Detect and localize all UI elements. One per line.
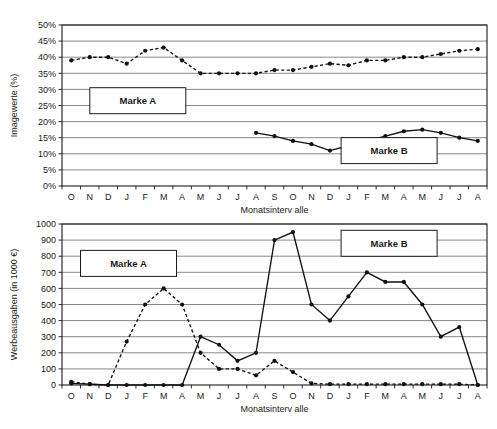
data-point [439,382,443,386]
series-label-text: Marke B [371,238,408,249]
x-tick-label: M [160,192,168,202]
x-tick-label: J [346,192,351,202]
data-point [254,131,258,135]
x-tick-label: M [419,192,427,202]
data-point [383,280,387,284]
y-tick-label: 25% [38,101,56,111]
x-tick-label: M [419,391,427,401]
data-point [383,58,387,62]
data-point [143,383,147,387]
y-tick-label: 10% [38,149,56,159]
y-axis-title: Werbeausgaben (in 1000 €) [9,249,19,360]
data-point [439,52,443,56]
data-point [198,351,202,355]
data-point [162,45,166,49]
x-tick-label: O [68,391,75,401]
data-point [309,381,313,385]
x-tick-label: J [124,391,129,401]
y-tick-label: 200 [41,348,56,358]
x-tick-label: J [235,192,240,202]
y-tick-label: 30% [38,85,56,95]
x-tick-label: J [235,391,240,401]
data-point [106,383,110,387]
data-point [476,47,480,51]
x-tick-label: F [142,391,148,401]
x-tick-label: A [253,391,259,401]
x-tick-label: J [217,391,222,401]
x-tick-label: N [86,192,93,202]
series-label-box-marke-b: Marke B [341,230,437,256]
y-tick-label: 1000 [36,219,56,229]
data-point [198,335,202,339]
x-tick-label: M [160,391,168,401]
data-point [69,381,73,385]
x-tick-label: A [401,391,407,401]
x-tick-label: M [197,391,205,401]
series-label-box-marke-a: Marke A [81,250,177,276]
data-point [328,148,332,152]
x-tick-label: J [439,391,444,401]
x-tick-label: F [364,192,370,202]
y-tick-label: 20% [38,117,56,127]
x-tick-label: D [327,391,334,401]
data-point [162,383,166,387]
image-values-chart: 0%5%10%15%20%25%30%35%40%45%50%ONDJFMAMJ… [0,0,497,215]
data-point [180,58,184,62]
x-tick-label: N [86,391,93,401]
y-tick-label: 500 [41,300,56,310]
x-tick-label: A [475,391,481,401]
y-tick-label: 400 [41,316,56,326]
data-point [346,382,350,386]
data-point [272,359,276,363]
x-tick-label: F [364,391,370,401]
x-tick-label: O [68,192,75,202]
x-tick-label: N [308,192,315,202]
data-point [106,55,110,59]
series-label-text: Marke A [110,258,147,269]
data-point [291,230,295,234]
data-point [272,238,276,242]
data-point [439,131,443,135]
data-point [180,383,184,387]
ad-spend-chart: 01002003004005006007008009001000ONDJFMAM… [0,210,497,429]
y-tick-label: 300 [41,332,56,342]
data-point [254,373,258,377]
data-point [272,134,276,138]
data-point [162,286,166,290]
data-point [309,142,313,146]
data-point [125,339,129,343]
y-tick-label: 45% [38,36,56,46]
y-axis: 01002003004005006007008009001000 [36,219,62,390]
data-point [402,55,406,59]
data-point [457,382,461,386]
data-point [235,359,239,363]
x-tick-label: J [217,192,222,202]
x-tick-label: A [179,391,185,401]
data-point [309,302,313,306]
data-point [328,62,332,66]
x-tick-label: A [401,192,407,202]
data-point [420,128,424,132]
y-tick-label: 40% [38,52,56,62]
data-point [402,129,406,133]
data-point [291,370,295,374]
data-point [328,319,332,323]
data-point [457,136,461,140]
y-tick-label: 35% [38,69,56,79]
x-tick-label: A [475,192,481,202]
x-axis-title: Monatsinterv alle [240,404,308,414]
series-label-box-marke-a: Marke A [90,88,186,114]
x-tick-label: J [457,391,462,401]
data-point [272,68,276,72]
data-point [420,302,424,306]
data-point [291,139,295,143]
y-axis-title: Imagewerte (%) [9,74,19,138]
y-tick-label: 800 [41,251,56,261]
bottom-plot: 01002003004005006007008009001000ONDJFMAM… [0,210,497,429]
data-point [439,335,443,339]
data-point [420,55,424,59]
y-axis: 0%5%10%15%20%25%30%35%40%45%50% [38,20,62,191]
data-point [217,71,221,75]
data-point [476,139,480,143]
x-tick-label: N [308,391,315,401]
